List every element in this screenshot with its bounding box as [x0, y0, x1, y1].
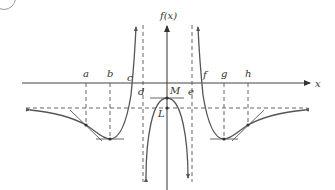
label-g: g: [221, 68, 227, 79]
x-axis-label: x: [315, 78, 321, 89]
label-d: d: [138, 86, 144, 97]
label-c: c: [127, 72, 133, 83]
label-e: e: [188, 86, 194, 97]
label-f: f: [202, 69, 209, 80]
point-inflection-h: [246, 123, 249, 126]
label-a: a: [83, 68, 89, 79]
y-axis-label: f(x): [159, 10, 177, 21]
point-minimum-g: [222, 137, 225, 140]
function-graph: f(x) x a b c d e f g h M L: [0, 0, 335, 190]
point-inflection-a: [84, 123, 87, 126]
point-M: [165, 96, 168, 99]
label-b: b: [107, 68, 113, 79]
label-L: L: [157, 108, 165, 119]
label-M: M: [169, 85, 181, 96]
label-h: h: [245, 68, 251, 79]
point-L: [165, 106, 168, 109]
point-minimum-b: [108, 137, 111, 140]
